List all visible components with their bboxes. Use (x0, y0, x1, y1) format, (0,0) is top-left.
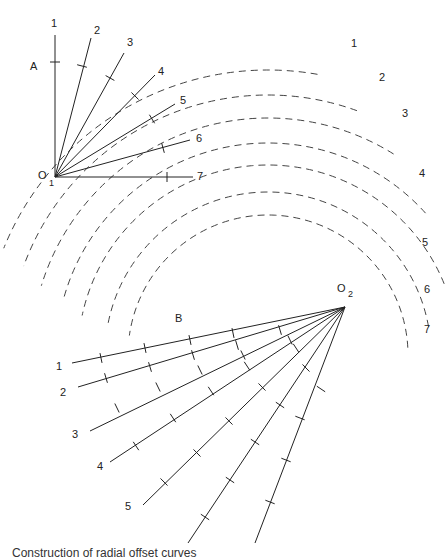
ray-fan-o1: 1234567 (50, 17, 203, 182)
dashed-arc (24, 95, 357, 266)
ray-label: 7 (197, 170, 203, 182)
ray-line (188, 307, 345, 543)
ray-label: 2 (60, 386, 66, 398)
point-b-label: B (175, 312, 182, 324)
tick-mark (241, 351, 245, 360)
ray-label: 5 (125, 500, 131, 512)
arc-label: 7 (424, 323, 430, 335)
ray-label: 6 (196, 132, 202, 144)
ray-line (55, 104, 175, 177)
origin2-subscript: 2 (348, 289, 353, 299)
ray-line (110, 307, 345, 462)
arc-label: 5 (422, 236, 428, 248)
dashed-arc (107, 192, 428, 327)
arc-6: 6 (107, 192, 430, 327)
ray-line (78, 307, 345, 387)
o2-ray-1: 1 (56, 307, 345, 372)
tick-mark (244, 362, 250, 370)
ray-line (55, 53, 124, 177)
dashed-arc (82, 165, 444, 315)
origin2-label: O (337, 282, 346, 294)
tick-mark (276, 402, 284, 408)
ray-label: 4 (158, 65, 164, 77)
ray-line (55, 140, 190, 177)
arc-label: 6 (424, 283, 430, 295)
ray-label: 1 (51, 17, 57, 29)
arc-label: 1 (351, 37, 357, 49)
ray-line (55, 38, 91, 177)
ray-line (55, 75, 155, 177)
ray-label: 2 (94, 24, 100, 36)
ray-label: 4 (97, 460, 103, 472)
arc-3: 3 (41, 107, 408, 286)
point-a-label: A (30, 60, 38, 72)
origin1-label: O (38, 169, 47, 181)
o2-ray-2: 2 (60, 307, 345, 398)
ray-line (72, 307, 345, 363)
origin1-subscript: 1 (49, 178, 54, 188)
arc-2: 2 (24, 71, 385, 266)
o2-ray-7 (255, 307, 345, 543)
tick-mark (192, 350, 195, 360)
tick-mark (77, 65, 87, 68)
ray-label: 1 (56, 360, 62, 372)
tick-mark (201, 514, 209, 520)
ray-fan-o2: 12345 (56, 307, 345, 543)
o1-ray-3: 3 (55, 36, 133, 177)
tick-mark (226, 477, 234, 483)
tick-mark (293, 344, 299, 352)
tick-mark (251, 439, 259, 445)
tick-mark (149, 362, 152, 372)
dashed-arc (63, 143, 425, 300)
tick-mark (198, 366, 202, 375)
ray-label: 3 (127, 36, 133, 48)
arc-label: 3 (402, 107, 408, 119)
ray-line (255, 307, 345, 543)
ray-line (143, 307, 345, 505)
arc-4: 4 (63, 143, 425, 300)
o1-ray-7: 7 (55, 170, 203, 182)
dashed-arc (4, 70, 318, 248)
dashed-arc (129, 215, 407, 348)
figure-caption: Construction of radial offset curves (12, 546, 197, 560)
dashed-offset-arcs: 1234567 (4, 37, 444, 348)
tick-mark (106, 76, 115, 81)
tick-mark (317, 386, 325, 392)
tick-mark (156, 383, 160, 392)
arc-label: 2 (379, 71, 385, 83)
o1-ray-5: 5 (55, 94, 186, 177)
arc-label: 4 (419, 167, 425, 179)
o2-ray-4: 4 (97, 307, 345, 472)
tick-mark (194, 449, 201, 456)
o2-ray-6 (188, 307, 345, 543)
diagram-labels: A B O 1 O 2 (30, 60, 353, 324)
tick-mark (236, 340, 239, 350)
o2-ray-5: 5 (125, 307, 345, 512)
tick-mark (100, 353, 102, 363)
tick-mark (115, 404, 119, 413)
tick-mark (208, 387, 214, 395)
arc-5: 5 (82, 165, 444, 315)
ray-label: 3 (72, 428, 78, 440)
tick-mark (259, 383, 266, 390)
dashed-arc (41, 118, 393, 286)
ray-label: 5 (180, 94, 186, 106)
o1-ray-1: 1 (50, 17, 60, 177)
tick-mark (189, 335, 191, 345)
